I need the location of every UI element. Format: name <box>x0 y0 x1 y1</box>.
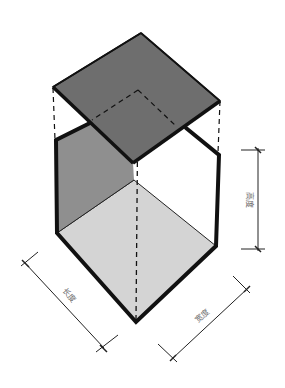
box-diagram: 高度 长度 宽度 <box>0 0 285 388</box>
height-label: 高度 <box>245 192 255 208</box>
length-label: 长度 <box>60 286 78 305</box>
width-label: 宽度 <box>193 307 212 325</box>
